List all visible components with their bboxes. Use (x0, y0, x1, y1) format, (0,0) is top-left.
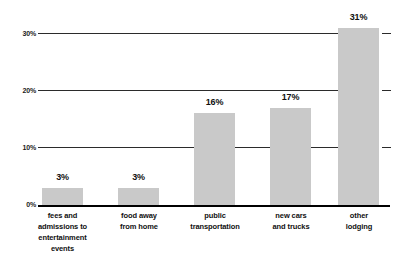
category-line: food away (98, 210, 180, 221)
gridline-30 (38, 33, 375, 34)
plot-area: 30% 20% 10% 0% 3% 3% 16% 17% 31% fees an… (0, 0, 404, 272)
ytick-label-30: 30% (6, 30, 36, 37)
category-label-fees-and-admissions: fees and admissions to entertainment eve… (20, 210, 105, 254)
bar-value-public-transportation: 16% (194, 98, 235, 107)
category-label-other-lodging: other lodging (318, 210, 400, 232)
category-line: from home (98, 221, 180, 232)
category-line: events (20, 243, 105, 254)
ytick-label-20: 20% (6, 87, 36, 94)
bar-chart: 30% 20% 10% 0% 3% 3% 16% 17% 31% fees an… (0, 0, 404, 272)
bar-food-away-from-home (118, 188, 159, 205)
grid-tick-10 (382, 147, 391, 148)
x-axis-baseline (38, 205, 390, 207)
category-line: other (318, 210, 400, 221)
bar-value-other-lodging: 31% (338, 13, 379, 22)
bar-other-lodging (338, 28, 379, 205)
category-line: public (174, 210, 256, 221)
category-label-food-away-from-home: food away from home (98, 210, 180, 232)
category-line: admissions to (20, 221, 105, 232)
grid-tick-20 (382, 90, 391, 91)
bar-fees-and-admissions (42, 188, 83, 205)
category-line: fees and (20, 210, 105, 221)
ytick-label-0: 0% (6, 201, 36, 208)
category-line: transportation (174, 221, 256, 232)
bar-public-transportation (194, 113, 235, 205)
gridline-20 (38, 90, 375, 91)
category-line: entertainment (20, 232, 105, 243)
grid-tick-30 (382, 33, 391, 34)
category-label-public-transportation: public transportation (174, 210, 256, 232)
ytick-label-10: 10% (6, 144, 36, 151)
bar-value-food-away-from-home: 3% (118, 173, 159, 182)
bar-new-cars-and-trucks (270, 108, 311, 205)
category-line: lodging (318, 221, 400, 232)
bar-value-new-cars-and-trucks: 17% (270, 93, 311, 102)
bar-value-fees-and-admissions: 3% (42, 173, 83, 182)
